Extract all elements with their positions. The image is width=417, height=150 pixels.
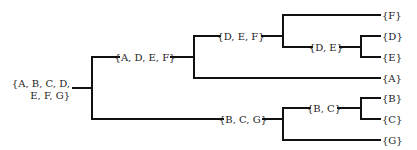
edge-def: [262, 15, 283, 47]
node-root-label-line2: E, F, G}: [30, 90, 70, 101]
node-bc-label: {B, C}: [307, 103, 341, 114]
leaf-f-label: {F}: [382, 10, 402, 21]
leaf-b-label: {B}: [382, 93, 402, 104]
leaf-a-label: {A}: [382, 73, 402, 84]
leaf-d-label: {D}: [382, 31, 403, 42]
leaf-g-label: {G}: [382, 135, 403, 146]
node-root: {A, B, C, D, E, F, G}: [12, 78, 70, 101]
node-root-label-line1: {A, B, C, D,: [12, 78, 70, 89]
node-adef-label: {A, D, E, F}: [115, 52, 176, 63]
edge-bc: [338, 98, 361, 119]
tree-diagram: {A, B, C, D, E, F, G} {A, D, E, F} {D, E…: [0, 0, 417, 150]
leaf-e-label: {E}: [382, 52, 402, 63]
node-def-label: {D, E, F}: [217, 31, 264, 42]
edge-adef: [171, 36, 194, 78]
edge-root: [73, 57, 92, 119]
node-bcg-label: {B, C, G}: [219, 114, 267, 125]
leaf-c-label: {C}: [382, 114, 402, 125]
node-de-label: {D, E}: [309, 42, 343, 53]
edge-de: [340, 36, 361, 57]
